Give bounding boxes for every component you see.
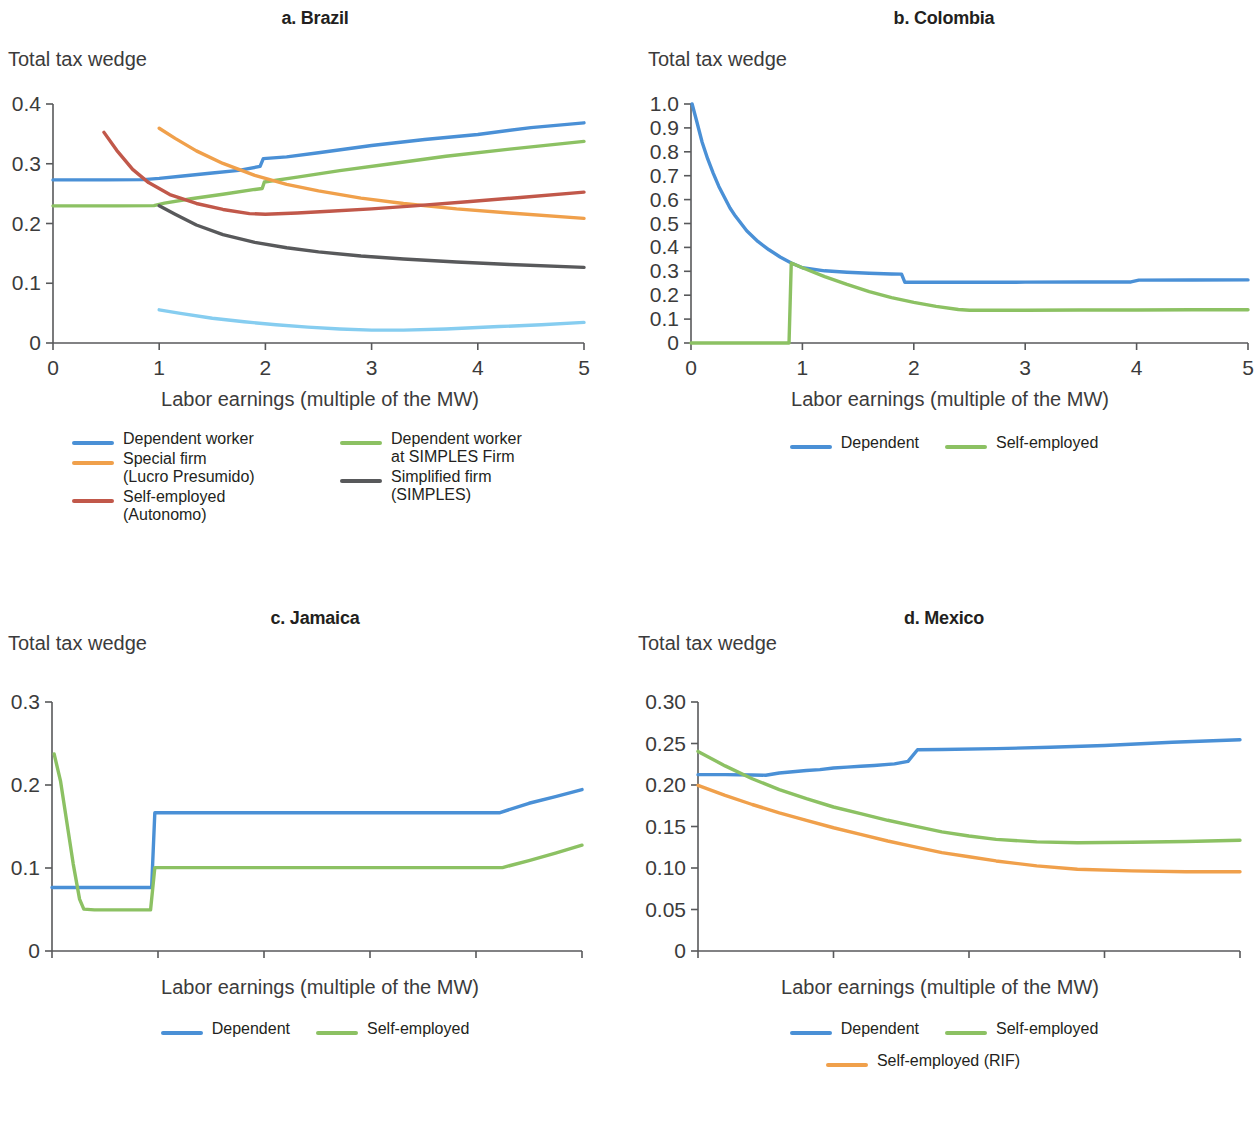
legend-swatch-green	[316, 1031, 358, 1035]
chart-canvas-jamaica: 00.10.20.3012345	[0, 668, 630, 968]
svg-text:0.6: 0.6	[650, 188, 679, 211]
legend-item[interactable]: Dependent	[790, 1020, 919, 1038]
svg-text:0.7: 0.7	[650, 164, 679, 187]
panel-mexico: d. Mexico Total tax wedge 00.050.100.150…	[630, 600, 1258, 1122]
svg-text:0.5: 0.5	[650, 212, 679, 235]
legend-swatch-green	[945, 445, 987, 449]
svg-text:1: 1	[152, 964, 164, 968]
legend-column-1: Dependent worker Special firm (Lucro Pre…	[72, 430, 340, 526]
legend-mexico-row-1: Dependent Self-employed	[630, 1020, 1258, 1040]
svg-text:5: 5	[578, 356, 590, 379]
svg-text:4: 4	[472, 356, 484, 379]
svg-text:0.2: 0.2	[12, 212, 41, 235]
svg-text:0.2: 0.2	[11, 773, 40, 796]
legend-item[interactable]: Special firm (Lucro Presumido)	[72, 450, 340, 486]
svg-text:4: 4	[470, 964, 482, 968]
legend-item[interactable]: Self-employed (Autonomo)	[72, 488, 340, 524]
legend-item[interactable]: Self-employed	[945, 434, 1098, 452]
chart-canvas-mexico: 00.050.100.150.200.250.3012345	[630, 668, 1258, 968]
legend-swatch-blue	[72, 441, 114, 445]
legend-swatch-blue	[790, 445, 832, 449]
svg-text:0.4: 0.4	[650, 235, 680, 258]
legend-item[interactable]: Dependent	[790, 434, 919, 452]
y-axis-label-mexico: Total tax wedge	[638, 632, 777, 655]
svg-text:0.3: 0.3	[11, 690, 40, 713]
legend-swatch-green	[945, 1031, 987, 1035]
legend-swatch-blue	[161, 1031, 203, 1035]
svg-text:4: 4	[1131, 356, 1143, 379]
svg-text:3: 3	[1019, 356, 1031, 379]
svg-text:1: 1	[153, 356, 165, 379]
svg-text:0: 0	[28, 939, 40, 962]
svg-text:5: 5	[1242, 356, 1254, 379]
svg-text:0: 0	[674, 939, 686, 962]
svg-text:0: 0	[47, 356, 59, 379]
svg-text:0.20: 0.20	[645, 773, 686, 796]
svg-text:0.1: 0.1	[12, 271, 41, 294]
panel-title-jamaica: c. Jamaica	[0, 600, 630, 629]
legend-swatch-blue	[790, 1031, 832, 1035]
legend-label: Dependent	[841, 434, 919, 452]
legend-item[interactable]: Dependent	[161, 1020, 290, 1038]
chart-canvas-colombia: 00.10.20.30.40.50.60.70.80.91.0012345	[630, 80, 1258, 380]
svg-text:0.1: 0.1	[11, 856, 40, 879]
legend-item[interactable]: Dependent worker	[72, 430, 340, 448]
svg-text:1: 1	[692, 964, 704, 968]
legend-label: Dependent worker	[123, 430, 254, 448]
svg-text:5: 5	[1234, 964, 1246, 968]
svg-text:0.3: 0.3	[650, 259, 679, 282]
svg-text:2: 2	[260, 356, 272, 379]
svg-text:3: 3	[366, 356, 378, 379]
svg-text:2: 2	[828, 964, 840, 968]
legend-item[interactable]: Self-employed	[945, 1020, 1098, 1038]
legend-swatch-orange	[826, 1063, 868, 1067]
x-axis-label-jamaica: Labor earnings (multiple of the MW)	[40, 976, 600, 999]
legend-label: Self-employed	[996, 1020, 1098, 1038]
svg-text:0: 0	[667, 331, 679, 354]
svg-text:0.9: 0.9	[650, 116, 679, 139]
legend-label: Self-employed (RIF)	[877, 1052, 1020, 1070]
legend-label: Dependent worker at SIMPLES Firm	[391, 430, 522, 466]
legend-label: Dependent	[841, 1020, 919, 1038]
svg-text:1: 1	[797, 356, 809, 379]
panel-brazil: a. Brazil Total tax wedge 00.10.20.30.40…	[0, 0, 630, 600]
legend-brazil: Dependent worker Special firm (Lucro Pre…	[72, 430, 612, 526]
legend-item[interactable]: Simplified firm (SIMPLES)	[340, 468, 600, 504]
svg-text:0.3: 0.3	[12, 152, 41, 175]
legend-item[interactable]: Self-employed (RIF)	[826, 1052, 1020, 1070]
svg-text:0.4: 0.4	[12, 92, 42, 115]
y-axis-label-jamaica: Total tax wedge	[8, 632, 147, 655]
svg-text:3: 3	[963, 964, 975, 968]
panel-colombia: b. Colombia Total tax wedge 00.10.20.30.…	[630, 0, 1258, 600]
legend-label: Dependent	[212, 1020, 290, 1038]
svg-text:0: 0	[29, 331, 41, 354]
figure-grid: a. Brazil Total tax wedge 00.10.20.30.40…	[0, 0, 1258, 1122]
legend-item[interactable]: Dependent worker at SIMPLES Firm	[340, 430, 600, 466]
svg-text:0.05: 0.05	[645, 898, 686, 921]
svg-text:0.25: 0.25	[645, 732, 686, 755]
svg-text:4: 4	[1099, 964, 1111, 968]
svg-text:0.15: 0.15	[645, 815, 686, 838]
x-axis-label-brazil: Labor earnings (multiple of the MW)	[40, 388, 600, 411]
legend-item[interactable]: Self-employed	[316, 1020, 469, 1038]
legend-swatch-darkgray	[340, 479, 382, 483]
svg-text:0: 0	[685, 356, 697, 379]
x-axis-label-mexico: Labor earnings (multiple of the MW)	[660, 976, 1220, 999]
legend-swatch-orange	[72, 461, 114, 465]
svg-text:0.1: 0.1	[650, 307, 679, 330]
svg-text:0: 0	[46, 964, 58, 968]
legend-column-2: Dependent worker at SIMPLES Firm Simplif…	[340, 430, 600, 526]
y-axis-label-brazil: Total tax wedge	[8, 48, 147, 71]
svg-text:0.8: 0.8	[650, 140, 679, 163]
x-axis-label-colombia: Labor earnings (multiple of the MW)	[670, 388, 1230, 411]
legend-jamaica: Dependent Self-employed	[0, 1020, 630, 1040]
panel-jamaica: c. Jamaica Total tax wedge 00.10.20.3012…	[0, 600, 630, 1122]
legend-label: Self-employed	[367, 1020, 469, 1038]
panel-title-mexico: d. Mexico	[630, 600, 1258, 629]
legend-label: Simplified firm (SIMPLES)	[391, 468, 491, 504]
legend-swatch-red	[72, 499, 114, 503]
legend-swatch-green	[340, 441, 382, 445]
panel-title-brazil: a. Brazil	[0, 0, 630, 29]
svg-text:2: 2	[258, 964, 270, 968]
svg-text:0.2: 0.2	[650, 283, 679, 306]
